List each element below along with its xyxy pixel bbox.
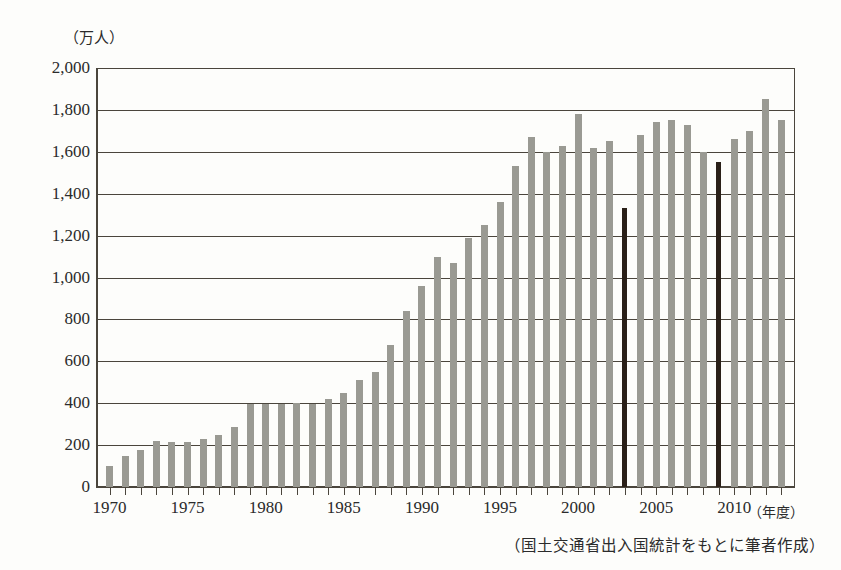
y-axis-tick-label: 600 bbox=[28, 351, 90, 371]
bar-2010 bbox=[731, 139, 738, 487]
bar-1974 bbox=[168, 442, 175, 487]
x-axis-tick-label: 1995 bbox=[470, 498, 530, 518]
x-axis-tick bbox=[672, 487, 673, 495]
x-axis-tick bbox=[266, 487, 267, 495]
bar-2011 bbox=[746, 131, 753, 487]
y-axis-tick-label: 1,800 bbox=[28, 100, 90, 120]
x-axis-tick bbox=[313, 487, 314, 495]
x-axis-tick bbox=[234, 487, 235, 495]
y-axis-tick-label: 800 bbox=[28, 309, 90, 329]
x-axis-tick bbox=[172, 487, 173, 495]
x-axis-tick bbox=[656, 487, 657, 495]
x-axis-tick bbox=[516, 487, 517, 495]
x-axis-tick bbox=[219, 487, 220, 495]
x-axis-unit-label: （年度） bbox=[748, 501, 804, 521]
x-axis-tick bbox=[125, 487, 126, 495]
bar-1980 bbox=[262, 404, 269, 487]
bar-1984 bbox=[325, 399, 332, 487]
x-axis-tick bbox=[766, 487, 767, 495]
bar-2009 bbox=[716, 162, 721, 487]
x-axis-tick-label: 1975 bbox=[158, 498, 218, 518]
x-axis-tick-label: 1985 bbox=[314, 498, 374, 518]
source-note: （国土交通省出入国統計をもとに筆者作成） bbox=[0, 533, 825, 555]
bar-2007 bbox=[684, 125, 691, 487]
bar-2003 bbox=[622, 208, 627, 487]
y-axis-tick-label: 1,000 bbox=[28, 268, 90, 288]
x-axis-tick bbox=[110, 487, 111, 495]
x-axis-tick bbox=[578, 487, 579, 495]
gridline bbox=[96, 68, 795, 69]
x-axis-tick bbox=[359, 487, 360, 495]
bar-1991 bbox=[434, 257, 441, 487]
x-axis-tick bbox=[734, 487, 735, 495]
bar-1988 bbox=[387, 345, 394, 487]
x-axis-tick bbox=[406, 487, 407, 495]
x-axis-tick bbox=[484, 487, 485, 495]
bar-2006 bbox=[668, 120, 675, 487]
x-axis-tick bbox=[469, 487, 470, 495]
x-axis-tick bbox=[438, 487, 439, 495]
x-axis-tick bbox=[719, 487, 720, 495]
chart-page: （万人） 02004006008001,0001,2001,4001,6001,… bbox=[0, 0, 841, 570]
x-axis-tick bbox=[625, 487, 626, 495]
y-axis-tick-label: 400 bbox=[28, 393, 90, 413]
x-axis-tick-label: 1980 bbox=[236, 498, 296, 518]
x-axis-tick bbox=[500, 487, 501, 495]
y-axis-tick-label: 1,400 bbox=[28, 184, 90, 204]
gridline bbox=[96, 110, 795, 111]
bar-2002 bbox=[606, 141, 613, 487]
y-axis-tick-label: 1,600 bbox=[28, 142, 90, 162]
y-axis-tick-label: 2,000 bbox=[28, 58, 90, 78]
bar-1979 bbox=[247, 404, 254, 487]
plot-area bbox=[96, 68, 795, 487]
x-axis-tick-label: 2000 bbox=[548, 498, 608, 518]
x-axis-tick bbox=[203, 487, 204, 495]
x-axis-tick bbox=[531, 487, 532, 495]
x-axis-tick bbox=[609, 487, 610, 495]
x-axis-tick-label: 1970 bbox=[80, 498, 140, 518]
bar-2008 bbox=[700, 152, 707, 487]
x-axis-tick bbox=[562, 487, 563, 495]
bar-1970 bbox=[106, 466, 113, 487]
x-axis-tick bbox=[750, 487, 751, 495]
bar-1986 bbox=[356, 380, 363, 487]
x-axis-tick bbox=[250, 487, 251, 495]
x-axis-tick-label: 2005 bbox=[626, 498, 686, 518]
bar-1994 bbox=[481, 225, 488, 487]
bar-1995 bbox=[497, 202, 504, 487]
x-axis-tick bbox=[422, 487, 423, 495]
x-axis-tick bbox=[641, 487, 642, 495]
bar-2004 bbox=[637, 135, 644, 487]
bar-1981 bbox=[278, 404, 285, 487]
x-axis-tick bbox=[687, 487, 688, 495]
x-axis-tick bbox=[281, 487, 282, 495]
bar-2001 bbox=[590, 148, 597, 487]
x-axis-tick bbox=[453, 487, 454, 495]
y-axis-tick-label: 0 bbox=[28, 477, 90, 497]
bar-1978 bbox=[231, 427, 238, 487]
x-axis-tick bbox=[141, 487, 142, 495]
bar-1999 bbox=[559, 146, 566, 487]
x-axis-tick bbox=[297, 487, 298, 495]
bar-1973 bbox=[153, 441, 160, 487]
x-axis-tick bbox=[328, 487, 329, 495]
x-axis-tick bbox=[391, 487, 392, 495]
bar-1990 bbox=[418, 286, 425, 487]
bar-1985 bbox=[340, 393, 347, 487]
bar-1972 bbox=[137, 450, 144, 487]
bar-1983 bbox=[309, 404, 316, 487]
x-axis-tick bbox=[375, 487, 376, 495]
x-axis-tick bbox=[594, 487, 595, 495]
bar-1971 bbox=[122, 456, 129, 487]
y-axis-tick-label: 1,200 bbox=[28, 226, 90, 246]
x-axis-tick bbox=[188, 487, 189, 495]
bar-1993 bbox=[465, 238, 472, 487]
x-axis-tick bbox=[156, 487, 157, 495]
bar-2012 bbox=[762, 99, 769, 487]
bar-1997 bbox=[528, 137, 535, 487]
bar-1976 bbox=[200, 439, 207, 487]
bar-1989 bbox=[403, 311, 410, 487]
bar-2013 bbox=[778, 120, 785, 487]
x-axis-tick bbox=[344, 487, 345, 495]
x-axis-tick bbox=[547, 487, 548, 495]
